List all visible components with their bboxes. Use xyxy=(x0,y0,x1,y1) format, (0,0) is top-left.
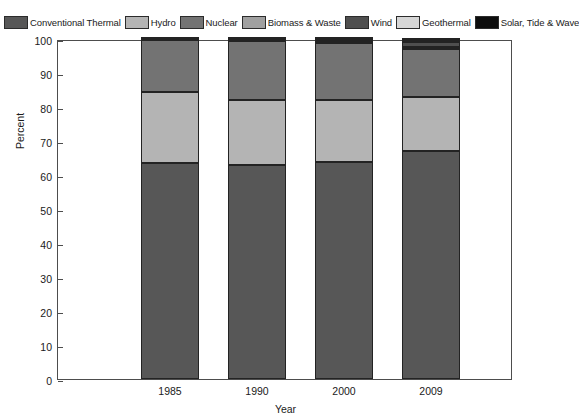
legend-swatch-icon xyxy=(345,16,369,29)
bar-segment[interactable] xyxy=(228,165,286,379)
x-axis-label: Year xyxy=(58,403,513,415)
y-axis-tick xyxy=(58,41,63,42)
bar-segment[interactable] xyxy=(402,151,460,379)
y-axis-tick xyxy=(58,211,63,212)
legend-label: Biomass & Waste xyxy=(268,17,341,28)
y-axis-tick-label: 10 xyxy=(12,342,52,352)
y-axis-tick-label: 0 xyxy=(12,376,52,386)
y-axis-tick xyxy=(58,245,63,246)
bar-segment[interactable] xyxy=(315,100,373,162)
plot-area: Percent Year 010203040506070809010019851… xyxy=(57,40,512,380)
bar-segment[interactable] xyxy=(315,43,373,100)
legend-label: Wind xyxy=(371,17,392,28)
y-axis-tick xyxy=(58,75,63,76)
legend-item[interactable]: Geothermal xyxy=(392,14,471,30)
bar-segment[interactable] xyxy=(228,37,286,39)
bar-segment[interactable] xyxy=(402,38,460,40)
x-axis-tick-label: 2000 xyxy=(304,385,384,397)
bar-segment[interactable] xyxy=(402,47,460,49)
legend-item[interactable]: Solar, Tide & Wave xyxy=(471,14,579,30)
legend-swatch-icon xyxy=(242,16,266,29)
bar-segment[interactable] xyxy=(141,92,199,163)
legend-swatch-icon xyxy=(475,16,499,29)
bar-segment[interactable] xyxy=(402,42,460,47)
bar-segment[interactable] xyxy=(141,37,199,39)
legend-item[interactable]: Biomass & Waste xyxy=(238,14,341,30)
bar-segment[interactable] xyxy=(402,97,460,151)
x-axis-tick-label: 2009 xyxy=(391,385,471,397)
bar-segment[interactable] xyxy=(141,40,199,92)
stacked-bar[interactable] xyxy=(315,39,373,379)
y-axis-tick-label: 90 xyxy=(12,70,52,80)
y-axis-tick-label: 40 xyxy=(12,240,52,250)
y-axis-tick-label: 20 xyxy=(12,308,52,318)
chart-legend: Conventional ThermalHydroNuclearBiomass … xyxy=(0,14,526,30)
legend-swatch-icon xyxy=(180,16,204,29)
y-axis-tick-label: 30 xyxy=(12,274,52,284)
y-axis-tick xyxy=(58,279,63,280)
y-axis-tick-label: 60 xyxy=(12,172,52,182)
y-axis-tick xyxy=(58,143,63,144)
bar-segment[interactable] xyxy=(402,40,460,42)
bar-segment[interactable] xyxy=(141,163,199,379)
legend-label: Geothermal xyxy=(422,17,471,28)
legend-label: Solar, Tide & Wave xyxy=(501,17,579,28)
legend-label: Nuclear xyxy=(206,17,238,28)
legend-swatch-icon xyxy=(125,16,149,29)
bar-segment[interactable] xyxy=(228,100,286,165)
legend-swatch-icon xyxy=(4,16,28,29)
bar-segment[interactable] xyxy=(228,41,286,101)
legend-swatch-icon xyxy=(396,16,420,29)
stacked-bar[interactable] xyxy=(228,39,286,379)
y-axis-tick xyxy=(58,347,63,348)
y-axis-tick xyxy=(58,313,63,314)
stacked-bar[interactable] xyxy=(141,39,199,379)
legend-item[interactable]: Hydro xyxy=(121,14,176,30)
bar-segment[interactable] xyxy=(315,41,373,43)
legend-label: Hydro xyxy=(151,17,176,28)
y-axis-tick-label: 50 xyxy=(12,206,52,216)
x-axis-tick-label: 1990 xyxy=(217,385,297,397)
bar-segment[interactable] xyxy=(315,162,373,379)
legend-item[interactable]: Wind xyxy=(341,14,392,30)
legend-label: Conventional Thermal xyxy=(30,17,121,28)
bar-segment[interactable] xyxy=(315,37,373,39)
y-axis-tick-label: 100 xyxy=(12,36,52,46)
legend-item[interactable]: Conventional Thermal xyxy=(0,14,121,30)
y-axis-tick xyxy=(58,109,63,110)
y-axis-tick-label: 80 xyxy=(12,104,52,114)
y-axis-tick-label: 70 xyxy=(12,138,52,148)
x-axis-tick-label: 1985 xyxy=(130,385,210,397)
bar-segment[interactable] xyxy=(402,49,460,97)
y-axis-tick xyxy=(58,177,63,178)
y-axis-tick xyxy=(58,381,63,382)
legend-item[interactable]: Nuclear xyxy=(176,14,238,30)
stacked-bar[interactable] xyxy=(402,39,460,379)
